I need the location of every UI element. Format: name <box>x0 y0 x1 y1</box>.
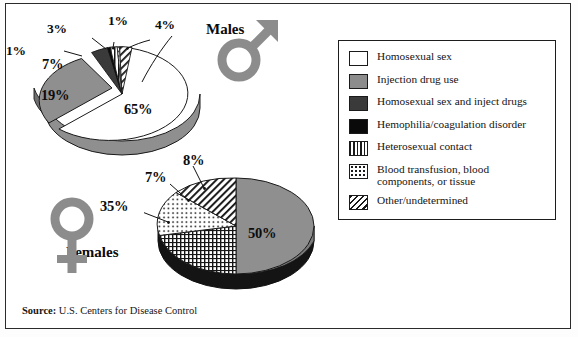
legend-item-heterosexual-contact: Heterosexual contact <box>349 140 547 156</box>
legend-item-hemophilia: Hemophilia/coagulation disorder <box>349 118 547 134</box>
legend-swatch-blood-transfusion <box>349 164 368 179</box>
females-label-8pct-other: 8% <box>183 153 204 168</box>
females-label-7pct-transfusion: 7% <box>145 170 166 185</box>
legend-item-homosexual-sex: Homosexual sex <box>349 50 547 66</box>
males-label-7pct-homo-drugs: 7% <box>42 57 63 72</box>
female-symbol-icon <box>44 193 106 277</box>
source-prefix: Source: <box>22 305 56 316</box>
source-note: Source: U.S. Centers for Disease Control <box>22 305 197 316</box>
legend-swatch-homosexual-sex <box>349 51 368 66</box>
legend-item-homosexual-and-drugs: Homosexual sex and inject drugs <box>349 95 547 111</box>
legend-swatch-hemophilia <box>349 119 368 134</box>
source-text: U.S. Centers for Disease Control <box>59 305 197 316</box>
figure-root: 1% 3% 1% 4% 7% 19% 65% Males <box>0 0 578 337</box>
legend-swatch-injection-drug-use <box>349 74 368 89</box>
legend-swatch-homosexual-and-drugs <box>349 96 368 111</box>
legend-label-homosexual-and-drugs: Homosexual sex and inject drugs <box>377 95 527 107</box>
legend-item-other-undetermined: Other/undetermined <box>349 194 547 210</box>
legend-label-hemophilia: Hemophilia/coagulation disorder <box>377 118 526 130</box>
females-label-50pct-injection: 50% <box>248 226 276 241</box>
legend-label-injection-drug-use: Injection drug use <box>377 73 459 85</box>
legend-label-other-undetermined: Other/undetermined <box>377 194 468 206</box>
males-label-19pct-injection: 19% <box>41 88 69 103</box>
legend-label-homosexual-sex: Homosexual sex <box>377 50 452 62</box>
males-label-3pct-heterosexual: 3% <box>47 22 67 36</box>
females-pie-chart <box>144 166 334 296</box>
males-label-4pct-other: 4% <box>155 18 175 32</box>
legend-label-blood-transfusion: Blood transfusion, blood components, or … <box>377 163 547 188</box>
females-pie-svg <box>144 166 334 296</box>
legend-item-blood-transfusion: Blood transfusion, blood components, or … <box>349 163 547 188</box>
legend-swatch-other-undetermined <box>349 195 368 210</box>
males-label-1pct-transfusion: 1% <box>108 14 128 28</box>
legend-box: Homosexual sex Injection drug use Homose… <box>338 40 556 220</box>
legend-label-heterosexual-contact: Heterosexual contact <box>377 140 472 152</box>
legend-item-injection-drug-use: Injection drug use <box>349 73 547 89</box>
male-symbol-icon <box>212 12 286 86</box>
legend-swatch-heterosexual-contact <box>349 141 368 156</box>
males-label-65pct-homosexual: 65% <box>124 102 152 117</box>
males-label-1pct-hemophilia: 1% <box>6 44 26 58</box>
